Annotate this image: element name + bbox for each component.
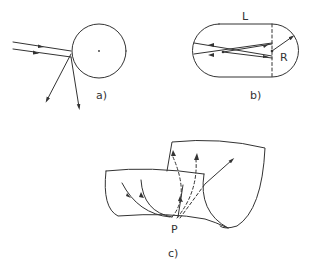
crossing-dot <box>222 51 225 54</box>
arrow-head-icon <box>208 53 214 57</box>
panel-b: L R b) <box>192 10 298 102</box>
arrow-head-icon <box>208 43 214 47</box>
incoming-ray-2 <box>13 49 71 57</box>
point-p-label: P <box>171 223 178 236</box>
panel-c-label: c) <box>168 247 178 260</box>
panel-b-label: b) <box>250 89 261 102</box>
escaping-ray <box>205 160 232 184</box>
radius-arrow <box>272 37 292 51</box>
length-label: L <box>242 10 249 23</box>
diagram-canvas: a) L R b) <box>0 0 313 271</box>
panel-a: a) <box>13 24 126 107</box>
front-sheet-top-edge <box>106 169 204 174</box>
panel-c: P c) <box>105 140 265 260</box>
arrow-head-icon <box>194 153 199 160</box>
scattered-ray-1 <box>47 54 71 100</box>
scattered-ray-2 <box>71 57 79 107</box>
arrow-head-icon <box>171 150 176 156</box>
radius-label: R <box>280 51 288 64</box>
panel-a-label: a) <box>96 89 107 102</box>
back-sheet <box>167 140 265 228</box>
trajectory-solid-2 <box>141 180 172 217</box>
circle-center-dot <box>98 50 100 52</box>
